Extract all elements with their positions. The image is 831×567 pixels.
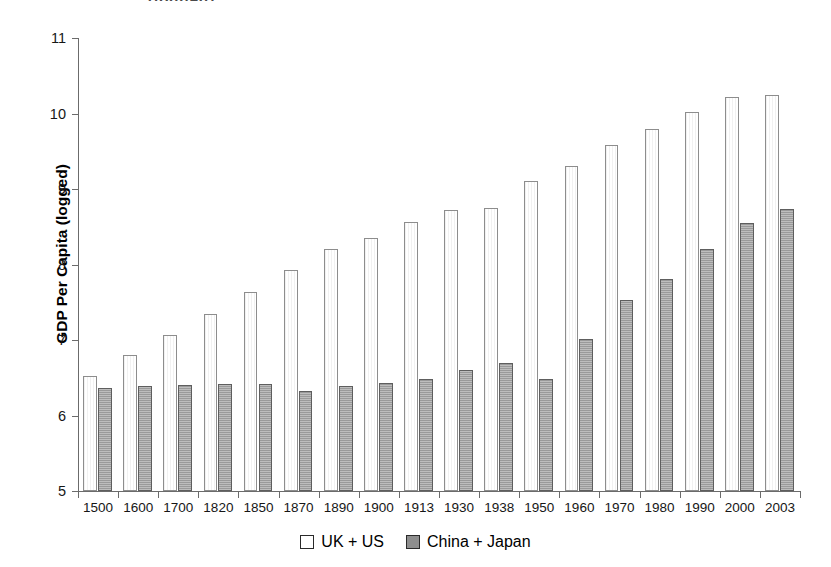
x-tick-label-1980: 1980 [640,500,680,515]
bar-uk-us-1890 [324,249,338,491]
bar-uk-us-1970 [605,145,619,491]
bar-uk-us-2003 [765,95,779,491]
bar-china-japan-1913 [419,379,433,491]
bar-china-japan-1820 [218,384,232,491]
bar-china-japan-1960 [579,339,593,492]
bar-china-japan-1980 [660,279,674,491]
bar-china-japan-1950 [539,379,553,491]
bar-uk-us-1938 [484,208,498,491]
x-tick-mark-16 [720,491,721,498]
x-tick-mark-17 [760,491,761,498]
y-tick-label-11: 11 [30,30,66,46]
x-tick-mark-1 [118,491,119,498]
bar-uk-us-1960 [565,166,579,491]
x-tick-mark-12 [559,491,560,498]
x-tick-mark-9 [439,491,440,498]
clipped-header-text: (logged) [148,0,215,1]
bar-uk-us-2000 [725,97,739,491]
bar-china-japan-1970 [620,300,634,491]
x-tick-label-1500: 1500 [78,500,118,515]
x-tick-mark-8 [399,491,400,498]
y-tick-label-9: 9 [30,181,66,197]
y-tick-label-6: 6 [30,408,66,424]
bar-china-japan-2000 [740,223,754,491]
x-tick-mark-6 [319,491,320,498]
x-tick-label-1900: 1900 [359,500,399,515]
x-tick-label-1913: 1913 [399,500,439,515]
legend-item-china-japan[interactable]: China + Japan [406,533,531,551]
bar-china-japan-1990 [700,249,714,491]
x-tick-label-2000: 2000 [720,500,760,515]
x-tick-mark-14 [640,491,641,498]
bar-uk-us-1700 [163,335,177,491]
x-tick-mark-5 [279,491,280,498]
bar-uk-us-1870 [284,270,298,491]
bar-china-japan-1600 [138,386,152,491]
bar-china-japan-1500 [98,388,112,491]
x-tick-mark-18 [800,491,801,498]
bar-uk-us-1950 [524,181,538,491]
bar-uk-us-1850 [244,292,258,491]
plot-area [78,38,800,491]
y-axis-title: GDP Per Capita (logged) [53,94,71,414]
bar-uk-us-1980 [645,129,659,491]
bar-china-japan-1930 [459,370,473,491]
bar-uk-us-1500 [83,376,97,491]
bar-china-japan-1870 [299,391,313,491]
bar-uk-us-1820 [204,314,218,491]
y-tick-label-5: 5 [30,483,66,499]
legend-item-uk-us[interactable]: UK + US [300,533,384,551]
x-tick-label-1600: 1600 [118,500,158,515]
x-tick-label-1960: 1960 [559,500,599,515]
legend-label: UK + US [321,533,384,551]
bar-uk-us-1913 [404,222,418,491]
bar-china-japan-2003 [780,209,794,491]
legend-swatch-icon [300,535,314,549]
bar-china-japan-1938 [499,363,513,491]
y-tick-label-7: 7 [30,332,66,348]
chart-legend: UK + USChina + Japan [0,533,831,551]
bar-uk-us-1900 [364,238,378,491]
legend-swatch-icon [406,535,420,549]
y-tick-label-10: 10 [30,106,66,122]
x-tick-mark-10 [479,491,480,498]
x-tick-mark-2 [158,491,159,498]
bar-china-japan-1890 [339,386,353,491]
x-tick-label-1938: 1938 [479,500,519,515]
x-tick-label-1970: 1970 [599,500,639,515]
x-tick-label-1990: 1990 [680,500,720,515]
bar-china-japan-1700 [178,385,192,491]
x-tick-label-1950: 1950 [519,500,559,515]
x-tick-mark-11 [519,491,520,498]
bar-china-japan-1850 [259,384,273,491]
x-tick-mark-4 [238,491,239,498]
x-tick-label-1820: 1820 [198,500,238,515]
x-tick-label-1870: 1870 [279,500,319,515]
x-tick-mark-7 [359,491,360,498]
x-tick-label-1930: 1930 [439,500,479,515]
bar-uk-us-1990 [685,112,699,491]
x-tick-mark-0 [78,491,79,498]
bar-uk-us-1600 [123,355,137,491]
bar-china-japan-1900 [379,383,393,491]
x-tick-label-2003: 2003 [760,500,800,515]
y-tick-label-8: 8 [30,257,66,273]
x-tick-label-1890: 1890 [319,500,359,515]
gdp-per-capita-bar-chart: (logged) GDP Per Capita (logged) 5678910… [0,0,831,567]
bar-uk-us-1930 [444,210,458,491]
legend-label: China + Japan [427,533,531,551]
x-tick-mark-3 [198,491,199,498]
x-tick-label-1700: 1700 [158,500,198,515]
x-tick-label-1850: 1850 [238,500,278,515]
x-tick-mark-15 [680,491,681,498]
x-tick-mark-13 [599,491,600,498]
